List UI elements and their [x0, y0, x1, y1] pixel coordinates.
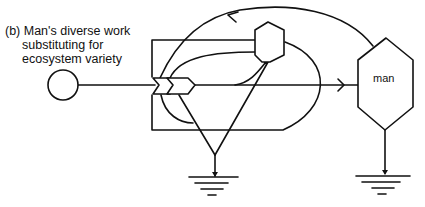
heat-line-right — [215, 62, 268, 155]
consumer-hexagon — [255, 22, 284, 62]
heat-sink-ecosystem-icon — [189, 177, 238, 195]
energy-source-circle — [48, 70, 78, 100]
man-hexagon — [358, 38, 413, 130]
heat-line-left — [179, 95, 215, 155]
consumer-return-curve — [170, 52, 255, 78]
feedback-arrow-icon — [228, 12, 238, 22]
man-label: man — [373, 72, 394, 84]
man-heat-arrow-icon — [382, 170, 388, 175]
heat-sink-man-icon — [356, 176, 410, 194]
energy-diagram: man — [0, 0, 425, 207]
rect-loop-top — [152, 40, 255, 77]
